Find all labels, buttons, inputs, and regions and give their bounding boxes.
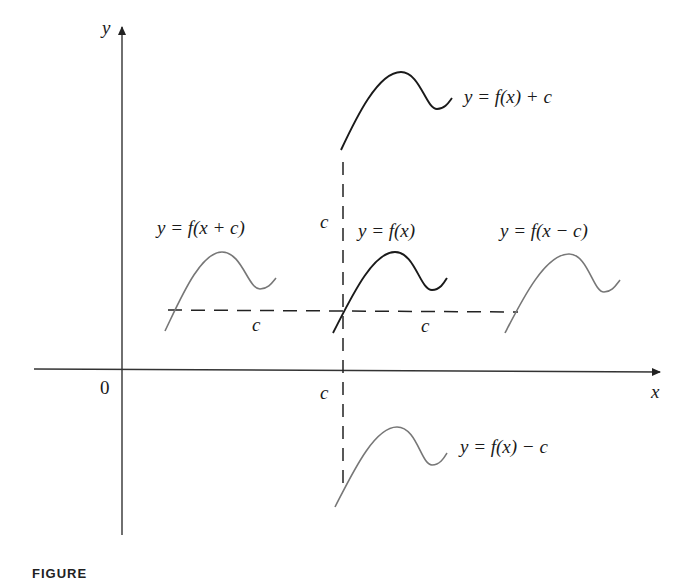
curve-f-plus-c: [341, 72, 452, 150]
label-f-x-minus-c: y = f(x − c): [500, 221, 588, 240]
y-axis-label: y: [102, 18, 110, 37]
label-f-plus-c: y = f(x) + c: [464, 87, 552, 106]
curve-f: [333, 252, 447, 333]
horizontal-shift-label-right: c: [421, 316, 429, 335]
vertical-shift-label: c: [320, 212, 328, 231]
figure-caption: FIGURE: [32, 566, 87, 581]
curve-f-minus-c: [335, 427, 447, 507]
x-axis: [34, 369, 660, 372]
x-axis-label: x: [651, 382, 659, 401]
origin-label: 0: [100, 378, 110, 397]
horizontal-shift-label-left: c: [252, 315, 260, 334]
label-f-minus-c: y = f(x) − c: [460, 437, 548, 456]
label-f-x-plus-c: y = f(x + c): [157, 218, 245, 237]
label-f: y = f(x): [358, 221, 415, 240]
curve-f-x-minus-c: [505, 254, 620, 333]
c-tick-label: c: [320, 383, 328, 402]
